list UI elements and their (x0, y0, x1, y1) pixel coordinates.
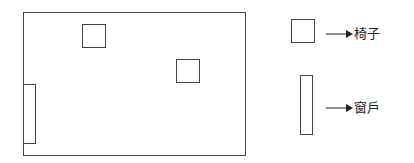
legend-arrows (0, 0, 414, 163)
legend-chair-label: 椅子 (354, 27, 380, 41)
arrow-icon (326, 30, 353, 38)
arrow-icon (326, 104, 353, 112)
legend-window-label: 窗戶 (354, 101, 380, 115)
